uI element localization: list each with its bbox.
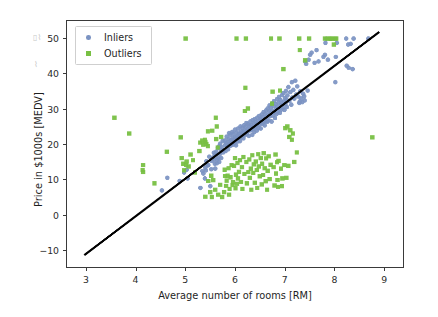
y-tick-label: 40 (26, 68, 59, 79)
y-tick-label: 10 (26, 174, 59, 185)
x-tick-label: 8 (331, 274, 337, 285)
chart-screenshot: ▯⌇ ⌇ Price in $1000s [MEDV] Average numb… (0, 0, 438, 317)
x-tick-mark (136, 268, 137, 271)
legend-item-outliers[interactable]: Outliers (82, 47, 142, 60)
legend-item-inliers[interactable]: Inliers (82, 31, 142, 44)
x-tick-label: 5 (182, 274, 188, 285)
x-tick-mark (285, 268, 286, 271)
x-tick-mark (86, 268, 87, 271)
x-tick-mark (235, 268, 236, 271)
inlier-marker-icon (82, 35, 95, 40)
x-tick-label: 9 (381, 274, 387, 285)
y-tick-label: 0 (26, 209, 59, 220)
outlier-marker-icon (82, 51, 95, 56)
x-tick-label: 3 (83, 274, 89, 285)
legend-label-inliers: Inliers (104, 33, 133, 43)
x-tick-label: 4 (133, 274, 139, 285)
x-tick-label: 7 (282, 274, 288, 285)
x-tick-mark (384, 268, 385, 271)
x-axis-label: Average number of rooms [RM] (66, 290, 404, 301)
y-tick-label: −10 (26, 245, 59, 256)
y-tick-label: 20 (26, 139, 59, 150)
legend-label-outliers: Outliers (104, 49, 142, 59)
x-tick-label: 6 (232, 274, 238, 285)
x-tick-mark (334, 268, 335, 271)
y-tick-label: 50 (26, 32, 59, 43)
x-tick-mark (185, 268, 186, 271)
legend: Inliers Outliers (75, 26, 152, 65)
y-tick-label: 30 (26, 103, 59, 114)
